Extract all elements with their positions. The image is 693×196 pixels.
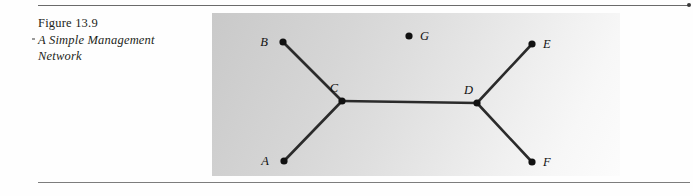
figure-title-line-1: A Simple Management — [38, 32, 206, 49]
figure-caption: Figure 13.9 A Simple Management Network — [38, 15, 206, 65]
top-rule-end-dot — [687, 3, 691, 7]
node-layer — [279, 32, 535, 165]
edge-d-f — [477, 103, 532, 162]
node-b — [279, 38, 286, 45]
node-g — [405, 32, 412, 39]
node-label-a: A — [260, 154, 269, 168]
node-label-c: C — [330, 81, 339, 95]
edge-layer — [283, 42, 532, 162]
node-label-e: E — [542, 37, 551, 51]
figure-title-line-2: Network — [38, 48, 206, 65]
edge-d-e — [477, 44, 532, 103]
node-label-g: G — [420, 29, 429, 43]
edge-a-c — [284, 101, 342, 161]
node-label-f: F — [542, 155, 551, 169]
node-c — [338, 97, 345, 104]
left-margin-tick — [32, 38, 35, 40]
node-a — [280, 157, 287, 164]
network-diagram: ABCDEFG — [212, 13, 620, 176]
edge-c-d — [342, 101, 477, 103]
figure-page: Figure 13.9 A Simple Management Network … — [0, 0, 693, 196]
label-layer: ABCDEFG — [260, 29, 551, 169]
node-d — [473, 99, 480, 106]
bottom-horizontal-rule — [38, 182, 690, 183]
top-horizontal-rule — [38, 5, 690, 6]
node-label-d: D — [463, 83, 473, 97]
figure-number: Figure 13.9 — [38, 15, 206, 32]
node-label-b: B — [260, 35, 268, 49]
node-e — [528, 40, 535, 47]
figure-image-panel: ABCDEFG — [212, 13, 620, 176]
node-f — [528, 158, 535, 165]
